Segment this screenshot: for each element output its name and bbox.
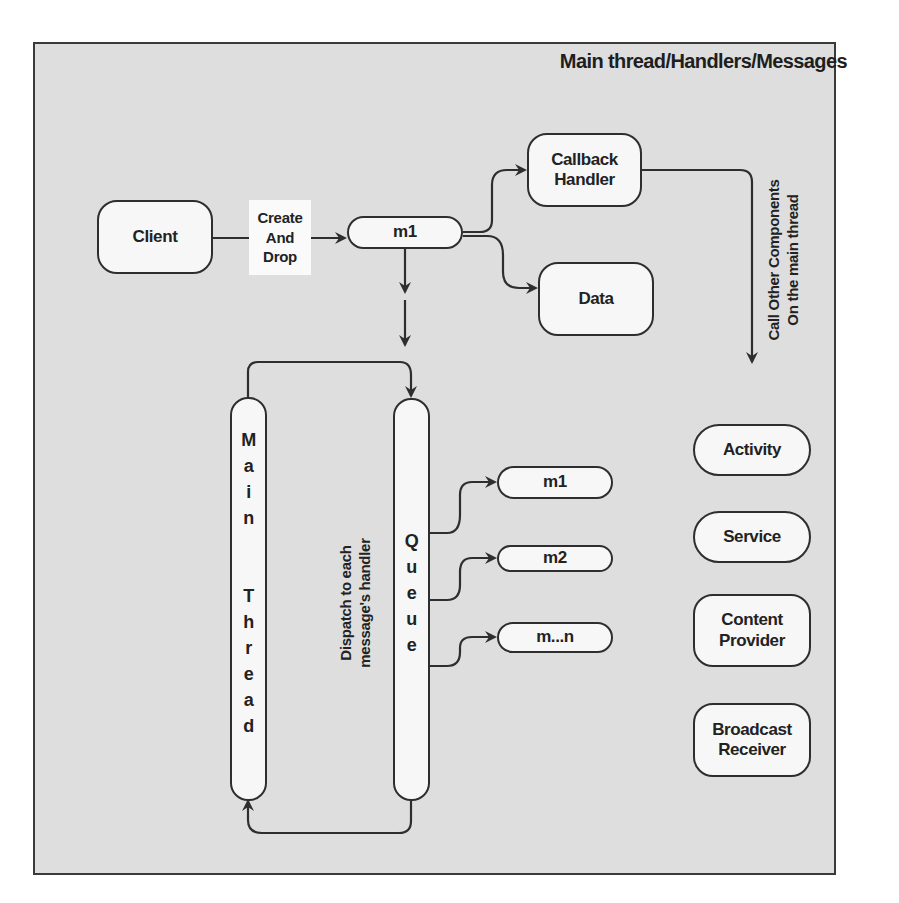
service-node: Service bbox=[693, 511, 811, 563]
queue-label: Q u e u e bbox=[405, 528, 419, 658]
queue-node: Q u e u e bbox=[393, 398, 430, 801]
client-node: Client bbox=[97, 200, 213, 274]
dispatch-label: Dispatch to each message's handler bbox=[337, 538, 375, 668]
queue-message-m1: m1 bbox=[497, 466, 613, 499]
content-provider-node: Content Provider bbox=[693, 594, 811, 667]
main-thread-node: M a i n T h r e a d bbox=[230, 397, 267, 801]
activity-node: Activity bbox=[693, 424, 811, 476]
message-m1-node: m1 bbox=[347, 216, 463, 249]
queue-message-m2: m2 bbox=[497, 545, 613, 572]
create-and-drop-label: Create And Drop bbox=[249, 200, 311, 275]
main-thread-label: M a i n T h r e a d bbox=[241, 427, 256, 739]
call-other-components-label: Call Other Components On the main thread bbox=[765, 175, 803, 345]
callback-handler-node: Callback Handler bbox=[527, 133, 642, 207]
data-node: Data bbox=[538, 262, 654, 336]
queue-message-mn: m...n bbox=[497, 622, 613, 653]
broadcast-receiver-node: Broadcast Receiver bbox=[693, 703, 811, 777]
